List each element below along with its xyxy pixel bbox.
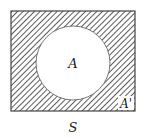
complement-label: A' [119, 97, 132, 111]
venn-diagram: A A' S [0, 0, 147, 138]
universe-label: S [69, 120, 78, 135]
set-a-label: A [67, 56, 77, 71]
